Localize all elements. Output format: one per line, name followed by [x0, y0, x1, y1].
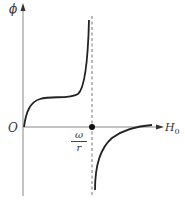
x-axis-arrow-icon — [156, 125, 164, 130]
x-axis-label: H0 — [165, 122, 180, 136]
fraction-denominator: r — [71, 143, 87, 153]
asymptote-marker-dot — [89, 124, 95, 130]
origin-label: O — [8, 122, 18, 134]
fraction-numerator: ω — [71, 130, 87, 140]
asymptote-fraction-label: ω r — [71, 130, 87, 153]
x-axis-label-main: H — [165, 121, 175, 134]
phase-diagram — [0, 0, 185, 202]
y-axis-label: ϕ — [9, 3, 17, 15]
x-axis-label-subscript: 0 — [175, 127, 180, 136]
y-axis-arrow-icon — [21, 3, 26, 11]
curve-left-branch — [24, 20, 89, 127]
curve-right-branch — [95, 125, 152, 190]
